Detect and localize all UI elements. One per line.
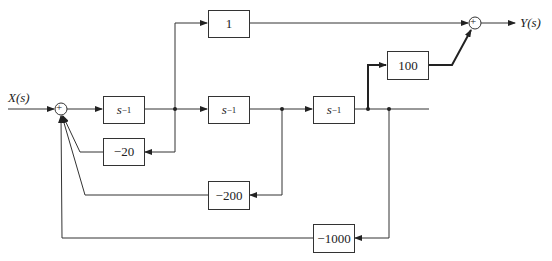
integrator-block-3: s−1 [313, 96, 355, 124]
integrator-block-2: s−1 [208, 96, 250, 124]
input-label: X(s) [8, 90, 30, 106]
output-summer-sign: + [470, 15, 476, 27]
feedback-gain-1000-block: −1000 [313, 224, 355, 253]
feedback-gain-20-block: −20 [103, 138, 145, 166]
diagram-wiring [0, 0, 552, 261]
output-gain-block: 100 [387, 51, 429, 80]
input-summer-sign: + [56, 101, 62, 113]
block-exponent: −1 [332, 105, 342, 115]
block-exponent: −1 [122, 105, 132, 115]
output-label: Y(s) [520, 15, 541, 31]
block-exponent: −1 [227, 105, 237, 115]
direct-gain-block: 1 [208, 10, 250, 38]
integrator-block-1: s−1 [103, 96, 145, 124]
feedback-gain-200-block: −200 [208, 181, 250, 210]
